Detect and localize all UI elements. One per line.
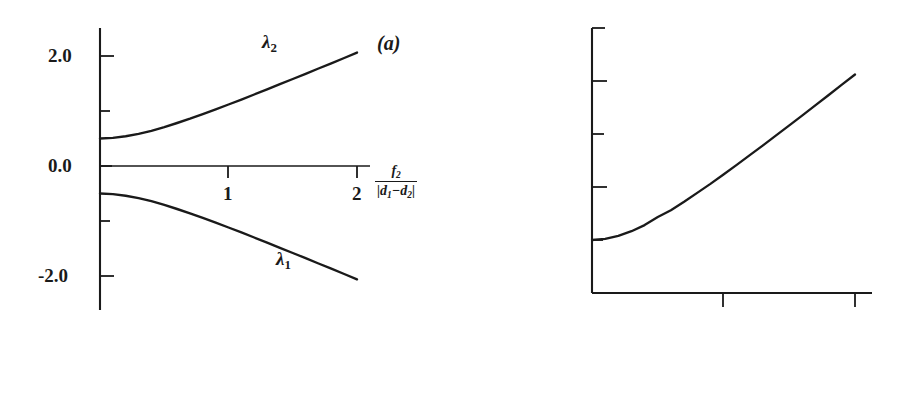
curve-label-lambda-1: λ1: [276, 249, 291, 272]
curve-lambda-2: [100, 53, 357, 139]
panel-a-ytick-label-neg2: -2.0: [38, 266, 68, 285]
panel-b-plot: [462, 0, 924, 395]
panel-a-x-ticks: [228, 166, 357, 178]
panel-a-x-axis-denominator: |d1−d2|: [375, 182, 417, 200]
curve-label-lambda-2: λ2: [262, 32, 277, 55]
curve-lambda-1: [100, 194, 357, 280]
numerator-f-subscript: 2: [396, 170, 401, 180]
panel-b-y-ticks: [592, 28, 607, 240]
panel-a: 2.0 0.0 -2.0 1 2 f2 |d1−d2| λ2 λ1 (a): [0, 0, 462, 395]
panel-a-x-axis-label: f2 |d1−d2|: [375, 163, 417, 200]
panel-a-xtick-label-1: 1: [223, 184, 233, 203]
denominator-close: |: [412, 183, 415, 198]
panel-a-ytick-label-0: 0.0: [48, 156, 72, 175]
denominator-mid: −d: [392, 183, 407, 198]
panel-a-y-ticks: [100, 56, 114, 276]
figure-root: 2.0 0.0 -2.0 1 2 f2 |d1−d2| λ2 λ1 (a): [0, 0, 924, 395]
panel-a-x-axis-fraction: f2 |d1−d2|: [375, 163, 417, 200]
panel-a-tag: (a): [377, 33, 400, 53]
panel-a-x-axis-numerator: f2: [375, 163, 417, 181]
panel-b: 4 2 0 1 2 S (b) f2/|d1− d2|: [462, 0, 924, 395]
panel-b-x-ticks: [723, 293, 855, 307]
curve-splitting-S: [592, 75, 855, 241]
lambda-1-subscript: 1: [284, 257, 290, 272]
denominator-open: |d: [377, 183, 387, 198]
panel-a-xtick-label-2: 2: [352, 184, 362, 203]
lambda-2-subscript: 2: [270, 40, 276, 55]
panel-a-ytick-label-2: 2.0: [48, 46, 72, 65]
